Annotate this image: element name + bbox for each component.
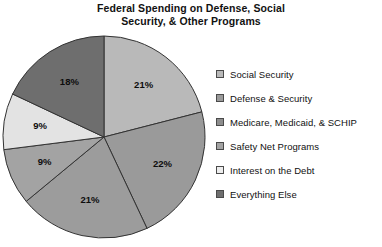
pie-svg: 21%22%21%9%9%18%: [0, 28, 212, 247]
chart-legend: Social Security Defense & Security Medic…: [216, 62, 382, 206]
pie-plot-area: 21%22%21%9%9%18%: [0, 28, 212, 247]
legend-item-medicare-medicaid-schip[interactable]: Medicare, Medicaid, & SCHIP: [216, 110, 382, 134]
legend-item-interest-on-the-debt[interactable]: Interest on the Debt: [216, 158, 382, 182]
legend-label-interest-on-the-debt: Interest on the Debt: [230, 165, 314, 176]
legend-swatch-icon-everything-else: [216, 190, 224, 198]
pie-chart-figure: Federal Spending on Defense, Social Secu…: [0, 0, 382, 247]
pie-slice-value-label: 18%: [60, 76, 80, 87]
legend-swatch-icon-safety-net-programs: [216, 142, 224, 150]
legend-item-safety-net-programs[interactable]: Safety Net Programs: [216, 134, 382, 158]
legend-item-everything-else[interactable]: Everything Else: [216, 182, 382, 206]
legend-label-everything-else: Everything Else: [230, 189, 297, 200]
legend-item-social-security[interactable]: Social Security: [216, 62, 382, 86]
pie-slice-value-label: 22%: [153, 158, 173, 169]
pie-slice-value-label: 9%: [33, 120, 47, 131]
chart-title-line-2: Security, & Other Programs: [0, 15, 382, 28]
pie-slice-value-label: 21%: [80, 194, 100, 205]
legend-swatch-icon-interest-on-the-debt: [216, 166, 224, 174]
legend-swatch-icon-social-security: [216, 70, 224, 78]
legend-label-social-security: Social Security: [230, 69, 294, 80]
chart-title-line-1: Federal Spending on Defense, Social: [0, 2, 382, 15]
chart-title: Federal Spending on Defense, Social Secu…: [0, 2, 382, 28]
legend-swatch-icon-defense-security: [216, 94, 224, 102]
legend-label-safety-net-programs: Safety Net Programs: [230, 141, 319, 152]
pie-slice-value-label: 9%: [38, 156, 52, 167]
legend-swatch-icon-medicare-medicaid-schip: [216, 118, 224, 126]
pie-slices-group: [3, 36, 205, 238]
pie-slice-value-label: 21%: [134, 79, 154, 90]
legend-item-defense-security[interactable]: Defense & Security: [216, 86, 382, 110]
legend-label-medicare-medicaid-schip: Medicare, Medicaid, & SCHIP: [230, 117, 357, 128]
legend-label-defense-security: Defense & Security: [230, 93, 312, 104]
